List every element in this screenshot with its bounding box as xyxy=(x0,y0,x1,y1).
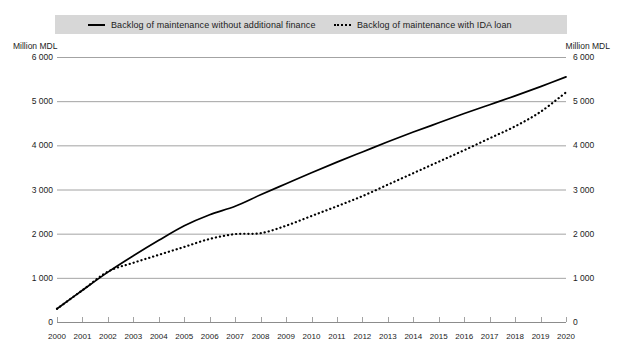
x-tick-label-2008: 2008 xyxy=(247,333,275,341)
y-tick-label-right-1000: 1 000 xyxy=(573,274,619,283)
data-series-group xyxy=(57,77,566,309)
chart-figure: Backlog of maintenance without additiona… xyxy=(0,0,622,359)
x-axis-tick-marks xyxy=(58,317,567,322)
y-tick-label-right-4000: 4 000 xyxy=(573,141,619,150)
x-tick-label-2009: 2009 xyxy=(272,333,300,341)
y-tick-label-right-3000: 3 000 xyxy=(573,186,619,195)
x-tick-label-2007: 2007 xyxy=(221,333,249,341)
y-tick-label-right-6000: 6 000 xyxy=(573,53,619,62)
gridlines-group xyxy=(57,58,566,323)
series-line-solid xyxy=(57,77,566,309)
x-tick-label-2000: 2000 xyxy=(43,333,71,341)
y-tick-label-right-2000: 2 000 xyxy=(573,230,619,239)
y-tick-label-left-0: 0 xyxy=(7,318,53,327)
x-tick-label-2018: 2018 xyxy=(501,333,529,341)
x-tick-label-2004: 2004 xyxy=(145,333,173,341)
x-tick-label-2020: 2020 xyxy=(552,333,580,341)
y-tick-label-left-1000: 1 000 xyxy=(7,274,53,283)
y-tick-label-right-5000: 5 000 xyxy=(573,97,619,106)
x-tick-label-2015: 2015 xyxy=(425,333,453,341)
series-line-dotted xyxy=(57,92,566,308)
x-tick-label-2012: 2012 xyxy=(348,333,376,341)
y-tick-label-left-3000: 3 000 xyxy=(7,186,53,195)
x-tick-label-2011: 2011 xyxy=(323,333,351,341)
plot-area xyxy=(0,0,622,359)
x-tick-label-2001: 2001 xyxy=(68,333,96,341)
x-tick-label-2005: 2005 xyxy=(170,333,198,341)
x-tick-label-2014: 2014 xyxy=(399,333,427,341)
x-tick-label-2006: 2006 xyxy=(196,333,224,341)
y-tick-label-left-2000: 2 000 xyxy=(7,230,53,239)
y-tick-label-left-5000: 5 000 xyxy=(7,97,53,106)
x-tick-label-2019: 2019 xyxy=(527,333,555,341)
x-tick-label-2013: 2013 xyxy=(374,333,402,341)
x-tick-label-2003: 2003 xyxy=(119,333,147,341)
y-tick-label-left-6000: 6 000 xyxy=(7,53,53,62)
x-tick-label-2002: 2002 xyxy=(94,333,122,341)
y-tick-label-left-4000: 4 000 xyxy=(7,141,53,150)
x-tick-label-2010: 2010 xyxy=(298,333,326,341)
x-tick-label-2017: 2017 xyxy=(476,333,504,341)
y-tick-label-right-0: 0 xyxy=(573,318,619,327)
x-tick-label-2016: 2016 xyxy=(450,333,478,341)
